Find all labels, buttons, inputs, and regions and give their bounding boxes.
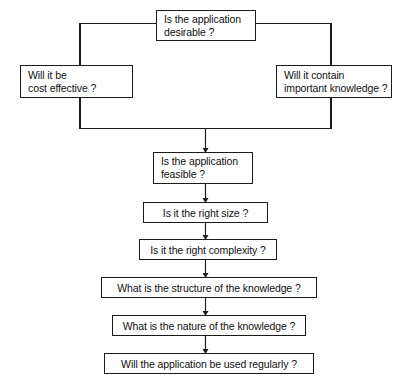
node-label-line: feasible ?	[161, 168, 205, 181]
node-label-line: desirable ?	[164, 26, 214, 39]
node-label-line: Will the application be used regularly ?	[121, 358, 297, 370]
connector-desirable-to-knowledge	[256, 24, 331, 66]
node-cost-effective: Will it becost effective ?	[20, 65, 133, 98]
node-label-line: What is the nature of the knowledge ?	[123, 320, 296, 332]
node-label-line: Will it contain	[284, 69, 344, 82]
node-is-application-desirable: Is the applicationdesirable ?	[156, 10, 256, 41]
node-label-line: What is the structure of the knowledge ?	[117, 282, 300, 294]
node-structure-of-knowledge: What is the structure of the knowledge ?	[101, 277, 317, 298]
node-label-line: Is the application	[164, 13, 241, 26]
node-used-regularly: Will the application be used regularly ?	[104, 353, 314, 374]
node-label-line: Is the application	[161, 155, 238, 168]
node-nature-of-knowledge: What is the nature of the knowledge ?	[112, 315, 306, 336]
node-label-line: important knowledge ?	[284, 82, 388, 95]
node-label-line: Will it be	[28, 69, 67, 82]
node-important-knowledge: Will it containimportant knowledge ?	[276, 65, 392, 98]
node-right-complexity: Is it the right complexity ?	[139, 239, 277, 260]
node-is-application-feasible: Is the applicationfeasible ?	[153, 152, 253, 184]
node-right-size: Is it the right size ?	[143, 202, 268, 223]
node-label-line: cost effective ?	[28, 82, 96, 95]
connector-desirable-to-cost	[80, 24, 156, 66]
node-label-line: Is it the right complexity ?	[150, 244, 266, 256]
node-label-line: Is it the right size ?	[163, 207, 248, 219]
flowchart-canvas: Is the applicationdesirable ?Will it bec…	[0, 0, 409, 389]
